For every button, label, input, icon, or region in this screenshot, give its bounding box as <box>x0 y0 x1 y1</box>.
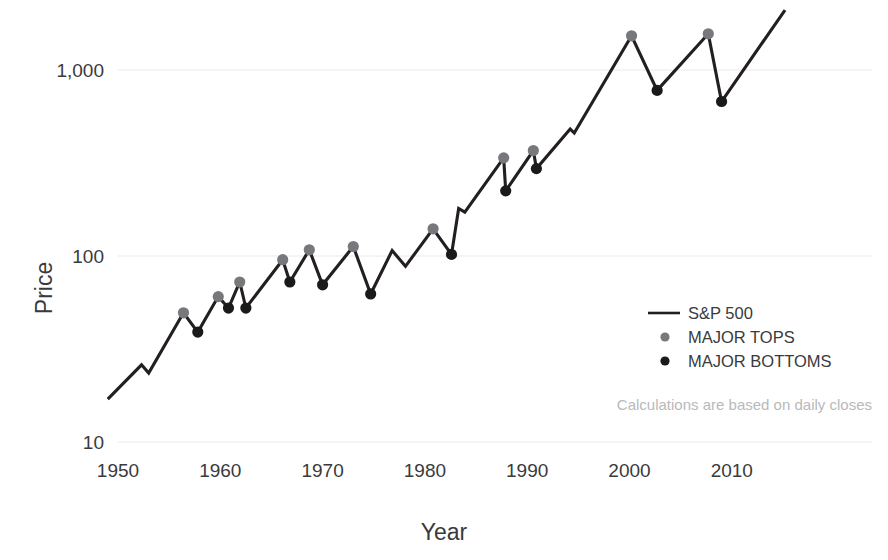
major-bottom-marker <box>192 326 203 337</box>
y-tick-label: 10 <box>83 432 104 453</box>
legend-dot-major-tops <box>660 332 669 341</box>
sp500-log-chart: 1,00010010 1950196019701980199020002010 … <box>0 0 888 560</box>
major-bottom-marker <box>531 163 542 174</box>
major-top-marker <box>348 241 359 252</box>
x-axis-title: Year <box>421 519 468 545</box>
legend-label-major-tops: MAJOR TOPS <box>688 328 795 346</box>
x-tick-label: 1990 <box>506 460 548 481</box>
major-top-marker <box>498 152 509 163</box>
major-bottom-marker <box>223 302 234 313</box>
major-top-marker <box>304 244 315 255</box>
major-top-marker <box>277 254 288 265</box>
x-tick-label: 2000 <box>608 460 650 481</box>
major-top-marker <box>626 30 637 41</box>
legend-label-major-bottoms: MAJOR BOTTOMS <box>688 352 832 370</box>
x-tick-label: 1980 <box>404 460 446 481</box>
major-top-marker <box>427 223 438 234</box>
major-top-marker <box>213 291 224 302</box>
major-top-marker <box>178 307 189 318</box>
major-bottom-marker <box>716 96 727 107</box>
x-tick-label: 1950 <box>97 460 139 481</box>
major-bottom-marker <box>500 185 511 196</box>
major-top-marker <box>234 276 245 287</box>
major-bottom-marker <box>446 249 457 260</box>
x-tick-label: 1960 <box>199 460 241 481</box>
x-tick-label: 1970 <box>301 460 343 481</box>
y-tick-label: 100 <box>72 246 104 267</box>
y-axis-title: Price <box>31 262 57 314</box>
major-top-marker <box>703 28 714 39</box>
legend-label-sp500: S&P 500 <box>688 304 753 322</box>
chart-canvas: 1,00010010 1950196019701980199020002010 … <box>0 0 888 560</box>
major-bottom-marker <box>652 85 663 96</box>
major-top-marker <box>528 145 539 156</box>
footnote-annotation: Calculations are based on daily closes <box>617 396 872 413</box>
x-tick-label: 2010 <box>711 460 753 481</box>
major-bottom-marker <box>240 302 251 313</box>
major-bottom-marker <box>365 288 376 299</box>
y-tick-label: 1,000 <box>56 60 104 81</box>
major-bottom-marker <box>317 279 328 290</box>
major-bottom-marker <box>284 276 295 287</box>
legend-dot-major-bottoms <box>660 356 669 365</box>
